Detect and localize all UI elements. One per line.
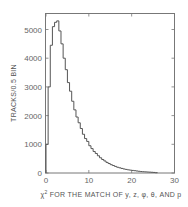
y-tick-label: 3000 — [24, 83, 42, 92]
plot-frame — [46, 14, 175, 174]
histogram-chart: 0102030 010002000300040005000 TRACKS/0.5… — [0, 0, 188, 207]
y-tick-label: 5000 — [24, 26, 42, 35]
histogram-step-line — [46, 21, 157, 173]
x-tick-label: 10 — [84, 176, 93, 185]
y-tick-label: 2000 — [24, 112, 42, 121]
x-tick-label: 0 — [44, 176, 49, 185]
y-tick-label: 4000 — [24, 54, 42, 63]
y-axis-ticks: 010002000300040005000 — [24, 26, 174, 179]
y-axis-label: TRACKS/0.5 BIN — [10, 64, 17, 122]
y-tick-label: 1000 — [24, 140, 42, 149]
y-tick-label: 0 — [38, 169, 43, 178]
x-axis-label: χ2 FOR THE MATCH OF y, z, φ, θ, AND p — [40, 189, 181, 199]
x-axis-label-text: FOR THE MATCH OF y, z, φ, θ, AND p — [48, 191, 182, 199]
x-axis-ticks: 0102030 — [44, 14, 180, 186]
x-tick-label: 20 — [127, 176, 136, 185]
x-tick-label: 30 — [170, 176, 179, 185]
